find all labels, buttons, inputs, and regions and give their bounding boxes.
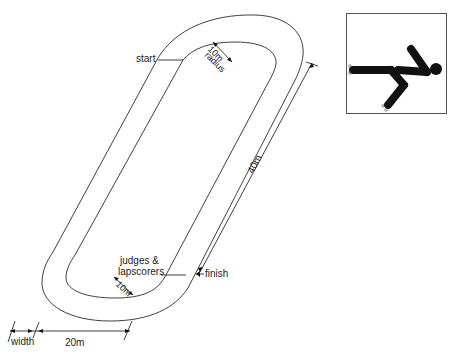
lapscorers-label: lapscorers [118,266,164,277]
width-label: width [11,336,34,347]
judges-label: judges & [120,255,159,266]
finish-label: finish [205,268,228,279]
start-label: start [136,53,155,64]
skater-pictogram-icon [347,14,446,113]
diameter-label: 20m [65,337,84,348]
skater-pictogram-box [346,13,447,114]
